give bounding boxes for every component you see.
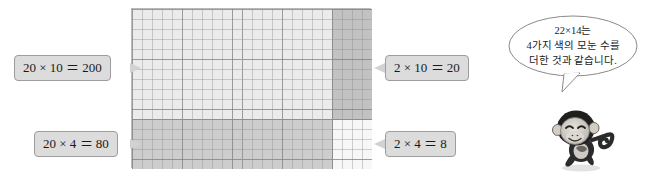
grid-region-2x4 [332, 119, 372, 169]
callout-20x10: 20 × 10 ＝ 200 [14, 55, 111, 81]
callout-20x4-pointer [130, 139, 141, 149]
callout-2x4-pointer [374, 139, 385, 149]
callout-20x10-pointer [130, 63, 141, 73]
speech-line-1: 22×14는 [506, 24, 640, 39]
grid-region-20x10 [132, 9, 332, 119]
callout-2x10: 2 × 10 ＝ 20 [385, 55, 469, 81]
callout-2x4: 2 × 4 ＝ 8 [385, 131, 456, 157]
callout-20x4: 20 × 4 ＝ 80 [34, 131, 118, 157]
callout-2x10-pointer [374, 63, 385, 73]
monkey-mascot-icon [548, 106, 624, 176]
area-model-grid [131, 8, 371, 168]
speech-line-2: 4가지 색의 모눈 수를 [506, 39, 640, 54]
speech-bubble-text: 22×14는 4가지 색의 모눈 수를 더한 것과 같습니다. [506, 24, 640, 69]
grid-region-2x10 [332, 9, 372, 119]
speech-line-3: 더한 것과 같습니다. [506, 54, 640, 69]
grid-region-20x4 [132, 119, 332, 169]
